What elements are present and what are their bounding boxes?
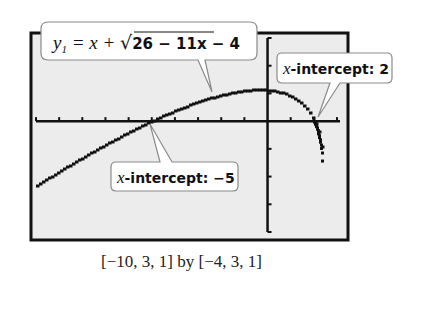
equation-rhs-prefix: = x +: [67, 32, 120, 53]
sqrt-symbol: √: [120, 31, 133, 53]
svg-text:y1 = x + √26 − 11x − 4: y1 = x + √26 − 11x − 4: [51, 31, 240, 55]
equation-rhs-suffix: − 4: [207, 35, 240, 53]
equation-radicand: 26 − 11x: [132, 35, 207, 53]
window-caption: [−10, 3, 1] by [−4, 3, 1]: [0, 252, 363, 272]
svg-text:x-intercept: 2: x-intercept: 2: [282, 59, 389, 78]
svg-text:x-intercept: −5: x-intercept: −5: [116, 168, 235, 187]
intercept-2-label: -intercept: 2: [291, 61, 389, 77]
intercept-neg5-label: -intercept: −5: [125, 170, 235, 186]
equation-lhs: y: [51, 32, 62, 53]
